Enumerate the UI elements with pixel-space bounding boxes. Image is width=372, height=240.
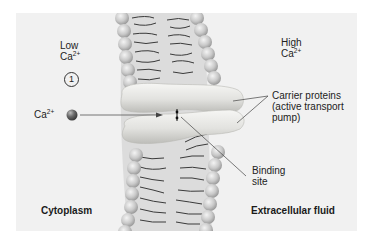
carrier-protein-upper [121, 83, 244, 112]
extracellular-fluid-label: Extracellular fluid [251, 205, 335, 216]
high-concentration-label: High Ca2+ [281, 37, 302, 59]
binding-site-label: Binding site [252, 165, 285, 187]
ion-label: Ca2+ [34, 109, 54, 120]
cytoplasm-label: Cytoplasm [41, 205, 92, 216]
step-number-badge: 1 [64, 72, 79, 87]
low-concentration-label: Low Ca2+ [60, 40, 80, 62]
carrier-proteins-label: Carrier proteins (active transport pump) [272, 90, 344, 123]
calcium-ion [67, 110, 78, 121]
